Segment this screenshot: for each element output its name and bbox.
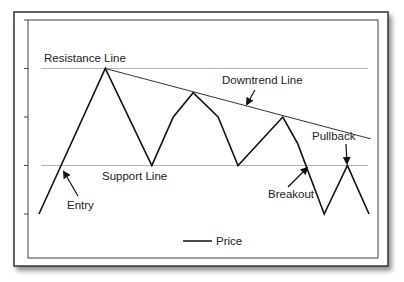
annotation-resistance-line: Resistance Line bbox=[44, 52, 126, 64]
chart: Resistance Line Support Line Downtrend L… bbox=[0, 0, 404, 282]
annotation-downtrend-line: Downtrend Line bbox=[222, 74, 303, 86]
legend-label-price: Price bbox=[216, 235, 242, 247]
annotation-support-line: Support Line bbox=[102, 170, 167, 182]
annotation-entry: Entry bbox=[67, 199, 94, 211]
annotation-breakout: Breakout bbox=[268, 188, 315, 200]
annotation-pullback: Pullback bbox=[312, 130, 356, 142]
